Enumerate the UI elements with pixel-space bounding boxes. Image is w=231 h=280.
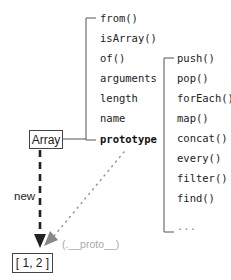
new-label: new — [14, 190, 35, 202]
array-constructor-box: Array — [29, 130, 63, 149]
proto-method-every: every() — [177, 152, 221, 164]
proto-method-foreach: forEach() — [177, 92, 231, 104]
proto-method-concat: concat() — [177, 132, 228, 144]
proto-method-map: map() — [177, 112, 209, 124]
proto-method-ellipsis: ... — [177, 220, 196, 232]
proto-label: (.__proto__) — [62, 238, 119, 250]
static-member-length: length — [100, 92, 138, 104]
proto-method-filter: filter() — [177, 172, 228, 184]
static-member-from: from() — [100, 12, 138, 24]
static-member-isarray: isArray() — [100, 32, 157, 44]
proto-method-push: push() — [177, 52, 215, 64]
proto-method-find: find() — [177, 192, 215, 204]
static-member-arguments: arguments — [100, 72, 157, 84]
array-instance-box: [ 1, 2 ] — [12, 253, 53, 273]
static-member-of: of() — [100, 52, 125, 64]
proto-method-pop: pop() — [177, 72, 209, 84]
static-member-name: name — [100, 112, 125, 124]
static-member-prototype: prototype — [100, 133, 157, 145]
